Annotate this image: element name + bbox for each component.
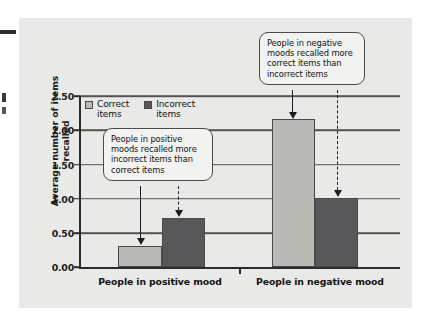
y-tick-label-0.00: 0.00 (28, 262, 74, 273)
bar-negative-correct[interactable] (272, 119, 315, 267)
legend-label-correct-line1: Correct (97, 99, 129, 109)
legend-item-incorrect[interactable]: Incorrect items (144, 99, 195, 119)
gridline-2.50 (80, 95, 400, 97)
page-edge-text-fragment-top (2, 93, 6, 102)
bar-negative-incorrect[interactable] (315, 198, 358, 268)
legend-label-incorrect-line2: items (156, 109, 181, 119)
bar-chart: Average number of items recalled 2.50 2.… (19, 18, 412, 308)
annotation-arrow-negative-correct (292, 90, 293, 112)
callout-negative-mood: People in negative moods recalled more c… (259, 32, 365, 85)
y-axis-tick-labels: 2.50 2.00 1.50 1.00 0.50 0.00 (19, 18, 74, 308)
legend-item-correct[interactable]: Correct items (85, 99, 129, 119)
annotation-arrow-positive-incorrect (178, 186, 179, 210)
callout-positive-mood: People in positive moods recalled more i… (103, 128, 213, 181)
legend-label-correct-line2: items (97, 109, 122, 119)
bar-positive-incorrect[interactable] (162, 218, 205, 268)
chart-panel: Average number of items recalled 2.50 2.… (19, 18, 412, 308)
page-edge-text-fragment-bottom (2, 107, 6, 114)
legend-label-incorrect: Incorrect items (156, 99, 195, 119)
legend-swatch-incorrect-icon (144, 101, 152, 109)
category-label-positive-mood: People in positive mood (80, 276, 240, 287)
arrowhead-icon (175, 210, 183, 217)
arrowhead-icon (137, 238, 145, 245)
category-label-negative-mood: People in negative mood (240, 276, 400, 287)
y-tick-label-2.50: 2.50 (28, 91, 74, 102)
annotation-arrow-positive-correct (140, 186, 141, 238)
x-axis-group-separator-tick (239, 269, 241, 274)
y-tick-label-1.50: 1.50 (28, 159, 74, 170)
y-tick-label-1.00: 1.00 (28, 193, 74, 204)
y-axis-line (79, 96, 81, 269)
y-tick-label-0.50: 0.50 (28, 228, 74, 239)
legend-label-incorrect-line1: Incorrect (156, 99, 195, 109)
legend-swatch-correct-icon (85, 101, 93, 109)
arrowhead-icon (334, 190, 342, 197)
annotation-arrow-negative-incorrect (337, 90, 338, 190)
page-edge-dash-artifact (0, 30, 16, 34)
arrowhead-icon (289, 112, 297, 119)
chart-legend: Correct items Incorrect items (85, 99, 195, 119)
legend-label-correct: Correct items (97, 99, 129, 119)
bar-positive-correct[interactable] (118, 246, 162, 267)
y-tick-label-2.00: 2.00 (28, 125, 74, 136)
